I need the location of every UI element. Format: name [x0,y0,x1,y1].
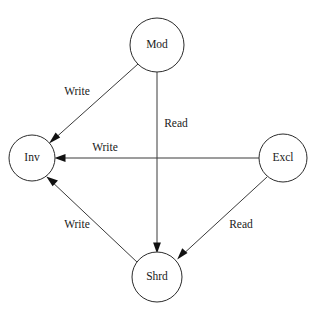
arrowhead-excl-to-shrd [177,248,187,259]
edge-label-shrd-to-inv: Write [64,218,90,230]
edge-label-mod-to-shrd: Read [164,117,188,129]
edge-shrd-to-inv[interactable]: Write [46,176,138,263]
edge-label-excl-to-shrd: Read [229,218,253,230]
node-label-shrd: Shrd [146,270,168,282]
node-label-inv: Inv [24,151,40,163]
edge-label-excl-to-inv: Write [92,141,118,153]
edge-line-mod-to-inv [52,64,138,141]
node-excl[interactable]: Excl [259,134,307,182]
node-group: Mod Inv Excl Shrd [9,18,307,302]
node-label-mod: Mod [146,38,168,50]
edge-line-shrd-to-inv [49,179,138,263]
arrowhead-mod-to-inv [49,133,60,144]
edge-line-excl-to-shrd [180,177,267,257]
node-inv[interactable]: Inv [9,135,55,181]
arrowhead-shrd-to-inv [46,176,58,186]
edge-group: Write Read Write Read [46,64,267,263]
node-label-excl: Excl [272,151,293,163]
edge-mod-to-inv[interactable]: Write [49,64,138,144]
arrowhead-excl-to-inv [55,154,66,162]
edge-excl-to-shrd[interactable]: Read [177,177,267,260]
state-diagram-canvas: Write Read Write Read [0,0,316,313]
edge-mod-to-shrd[interactable]: Read [153,72,188,254]
node-mod[interactable]: Mod [130,18,184,72]
state-diagram-svg: Write Read Write Read [0,0,316,313]
node-shrd[interactable]: Shrd [132,252,182,302]
edge-label-mod-to-inv: Write [64,85,90,97]
